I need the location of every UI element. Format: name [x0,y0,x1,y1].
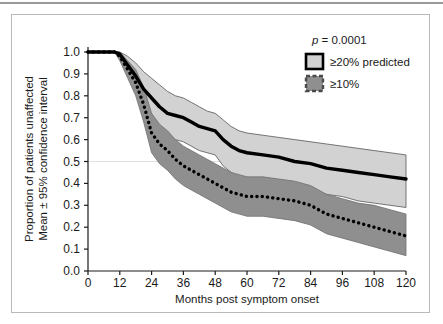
p-value-number: = 0.0001 [318,34,366,46]
x-tick-label: 36 [177,276,191,290]
legend-swatch-20pct [306,54,323,69]
legend-swatch-10pct [306,76,323,91]
y-axis-title-line1: Proportion of patients unaffected [23,76,35,242]
y-tick-label: 0.0 [63,264,80,278]
y-axis-title-line2: Mean ± 95% confidence interval [37,77,49,241]
x-tick-label: 108 [364,276,384,290]
y-tick-label: 0.9 [63,67,80,81]
x-tick-label: 72 [272,276,286,290]
y-axis-ticks: 0.00.10.20.30.40.50.60.70.80.91.0 [63,45,88,278]
y-tick-label: 0.4 [63,176,80,190]
x-tick-label: 0 [85,276,92,290]
x-axis-ticks: 01224364860728496108120 [85,271,417,290]
x-tick-label: 48 [209,276,223,290]
y-tick-label: 0.7 [63,111,80,125]
x-tick-label: 60 [240,276,254,290]
y-tick-label: 0.1 [63,242,80,256]
x-tick-label: 84 [304,276,318,290]
legend-label-10pct: ≥10% [330,78,359,90]
y-tick-label: 0.6 [63,133,80,147]
y-tick-label: 0.8 [63,89,80,103]
x-tick-label: 96 [336,276,350,290]
y-tick-label: 1.0 [63,45,80,59]
y-tick-label: 0.5 [63,155,80,169]
p-value-annotation: p = 0.0001 [311,34,367,46]
figure-root: 01224364860728496108120 0.00.10.20.30.40… [0,0,443,324]
x-tick-label: 120 [396,276,416,290]
y-tick-label: 0.3 [63,198,80,212]
x-axis-title: Months post symptom onset [175,293,320,305]
y-tick-label: 0.2 [63,220,80,234]
x-tick-label: 12 [113,276,127,290]
x-tick-label: 24 [145,276,159,290]
chart-legend: p = 0.0001 ≥20% predicted ≥10% [306,34,410,91]
legend-label-20pct: ≥20% predicted [330,56,410,68]
survival-curve-chart: 01224364860728496108120 0.00.10.20.30.40… [0,0,443,324]
